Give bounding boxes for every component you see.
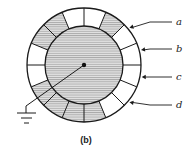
- diagram-canvas: abcd (b): [0, 0, 196, 153]
- arrowhead-icon: [129, 101, 133, 105]
- leader-line-d: [131, 102, 172, 105]
- ground-icon: [17, 113, 36, 123]
- figure-caption: (b): [80, 135, 92, 145]
- arrowhead-icon: [129, 24, 133, 28]
- arrowhead-icon: [141, 47, 145, 51]
- leader-line-a: [131, 22, 172, 28]
- label-d: d: [176, 99, 182, 110]
- label-a: a: [176, 16, 182, 27]
- label-c: c: [176, 71, 182, 82]
- arrowhead-icon: [142, 75, 146, 79]
- leader-line-b: [143, 49, 172, 50]
- label-b: b: [176, 43, 182, 54]
